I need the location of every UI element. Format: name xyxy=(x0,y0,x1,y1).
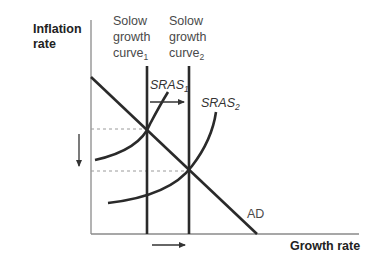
y-axis-label-line2: rate xyxy=(33,37,56,51)
sras1-label: SRAS1 xyxy=(150,78,189,94)
ad-label: AD xyxy=(247,207,264,221)
economics-diagram: Inflation rate Growth rate Solow growth … xyxy=(0,0,379,268)
x-axis-label: Growth rate xyxy=(290,239,360,253)
solow1-label-line1: Solow xyxy=(113,14,148,28)
solow1-label-line2: growth xyxy=(113,30,151,44)
solow2-label-line1: Solow xyxy=(169,14,204,28)
solow1-label-line3: curve1 xyxy=(113,46,149,62)
sras2-label: SRAS2 xyxy=(201,96,240,112)
solow2-label-line3: curve2 xyxy=(169,46,205,62)
diagram-canvas: Inflation rate Growth rate Solow growth … xyxy=(0,0,379,268)
y-axis-label-line1: Inflation xyxy=(33,22,82,36)
solow2-label-line2: growth xyxy=(169,30,207,44)
sras2-curve xyxy=(108,112,216,203)
